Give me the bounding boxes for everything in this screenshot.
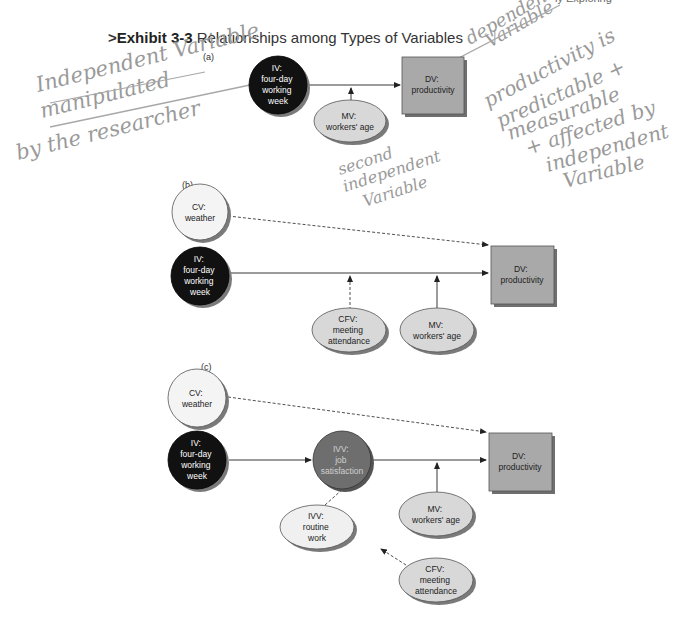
- node-cfv: CFV: meeting attendance: [312, 308, 389, 355]
- node-dv: DV: productivity: [402, 57, 467, 117]
- node-iv: IV: four-day working week: [249, 56, 310, 117]
- node-shape: [399, 492, 473, 536]
- node-dv: DV: productivity: [489, 433, 555, 494]
- node-ivv-job-satisfaction: IVV: job satisfaction: [313, 431, 374, 492]
- edge-cv-to-dv: [228, 397, 486, 432]
- node-cv: CV: weather: [172, 184, 231, 243]
- variables-diagram: Independent Variable manipulated by the …: [0, 0, 697, 636]
- node-ivv-routine-work: IVV: routine work: [280, 505, 357, 552]
- edge-cv-to-dv: [228, 216, 488, 245]
- panel-a: IV: four-day working week DV: productivi…: [249, 56, 467, 145]
- node-shape: [314, 100, 386, 142]
- node-mv: MV: workers' age: [314, 100, 389, 145]
- node-mv: MV: workers' age: [400, 308, 477, 355]
- node-dv: DV: productivity: [491, 246, 557, 307]
- node-iv: IV: four-day working week: [168, 431, 229, 492]
- panel-c: CV: weather IV: four-day working week IV…: [168, 369, 555, 605]
- right-note: productivity is predictable + measurable…: [479, 23, 672, 193]
- node-shape: [400, 308, 474, 352]
- node-cfv: CFV: meeting attendance: [399, 558, 476, 605]
- left-note: Independent Variable manipulated by the …: [13, 18, 261, 165]
- node-mv: MV: workers' age: [399, 492, 476, 539]
- node-shape: [172, 184, 228, 240]
- panel-b: CV: weather IV: four-day working week DV…: [171, 184, 557, 355]
- edge-cfv-to-routine-work: [381, 549, 406, 565]
- middle-note: second independent Variable: [335, 143, 443, 211]
- node-cv: CV: weather: [168, 369, 229, 430]
- node-shape: [168, 369, 226, 427]
- node-iv: IV: four-day working week: [171, 247, 232, 308]
